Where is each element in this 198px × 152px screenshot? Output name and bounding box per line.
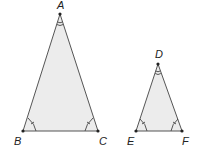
vertex-d-dot: [156, 62, 159, 65]
label-d: D: [155, 48, 163, 60]
triangle-abc: A B C: [14, 0, 107, 147]
label-f: F: [182, 135, 190, 147]
vertex-a-dot: [58, 12, 61, 15]
triangle-def: D E F: [127, 48, 190, 147]
label-e: E: [127, 135, 135, 147]
triangle-abc-fill: [23, 14, 98, 131]
vertex-b-dot: [21, 129, 24, 132]
vertex-f-dot: [180, 129, 183, 132]
similar-triangles-diagram: A B C D E F: [0, 0, 198, 152]
label-a: A: [56, 0, 64, 11]
vertex-c-dot: [96, 129, 99, 132]
vertex-e-dot: [134, 129, 137, 132]
label-b: B: [14, 135, 21, 147]
label-c: C: [99, 135, 107, 147]
